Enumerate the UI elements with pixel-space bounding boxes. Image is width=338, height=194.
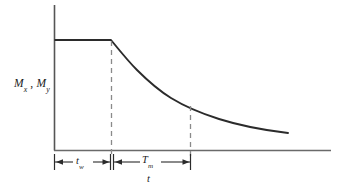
- decay-curve-plot: [0, 0, 338, 194]
- y-axis-separator: ,: [27, 77, 36, 89]
- y-axis-symbol-my: M: [36, 77, 46, 89]
- y-axis-subscript-y: y: [46, 85, 49, 94]
- tw-subscript: w: [79, 163, 84, 171]
- figure-container: Mx , My tw Tm t: [0, 0, 338, 194]
- tm-subscript: m: [148, 162, 153, 170]
- dashed-marker-group: [112, 41, 191, 158]
- axis-group: [54, 5, 331, 151]
- y-axis-subscript-x: x: [24, 85, 27, 94]
- dimension-tm-arrow-left: [115, 159, 122, 165]
- y-axis-symbol-mx: M: [14, 77, 24, 89]
- tm-symbol: T: [142, 154, 148, 165]
- exponential-decay-segment: [111, 40, 288, 133]
- signal-curve-group: [55, 40, 289, 133]
- x-axis-symbol: t: [147, 173, 150, 184]
- y-axis-label: Mx , My: [14, 78, 49, 92]
- dimension-label-tw: tw: [76, 156, 84, 169]
- dimension-tw-arrow-left: [56, 159, 63, 165]
- dimension-tw-arrow-right: [103, 159, 110, 165]
- dimension-tm-arrow-right: [183, 159, 190, 165]
- x-axis-label: t: [147, 174, 150, 185]
- dimension-label-tm: Tm: [142, 155, 153, 168]
